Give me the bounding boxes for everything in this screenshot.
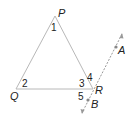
angle-label-5: 5 bbox=[78, 91, 84, 102]
vertex-label-r: R bbox=[95, 84, 103, 96]
angle-label-4: 4 bbox=[87, 72, 93, 83]
triangle-diagram: P Q R A B 1 2 3 4 5 bbox=[0, 0, 132, 126]
arrowhead-top-icon bbox=[120, 33, 124, 39]
point-label-a: A bbox=[117, 44, 125, 56]
point-label-b: B bbox=[91, 98, 98, 110]
vertex-label-q: Q bbox=[10, 90, 19, 102]
vertex-label-p: P bbox=[58, 7, 66, 19]
angle-label-1: 1 bbox=[51, 22, 57, 33]
angle-label-3: 3 bbox=[79, 78, 85, 89]
angle-label-2: 2 bbox=[22, 78, 28, 89]
point-b-dot bbox=[86, 98, 89, 101]
